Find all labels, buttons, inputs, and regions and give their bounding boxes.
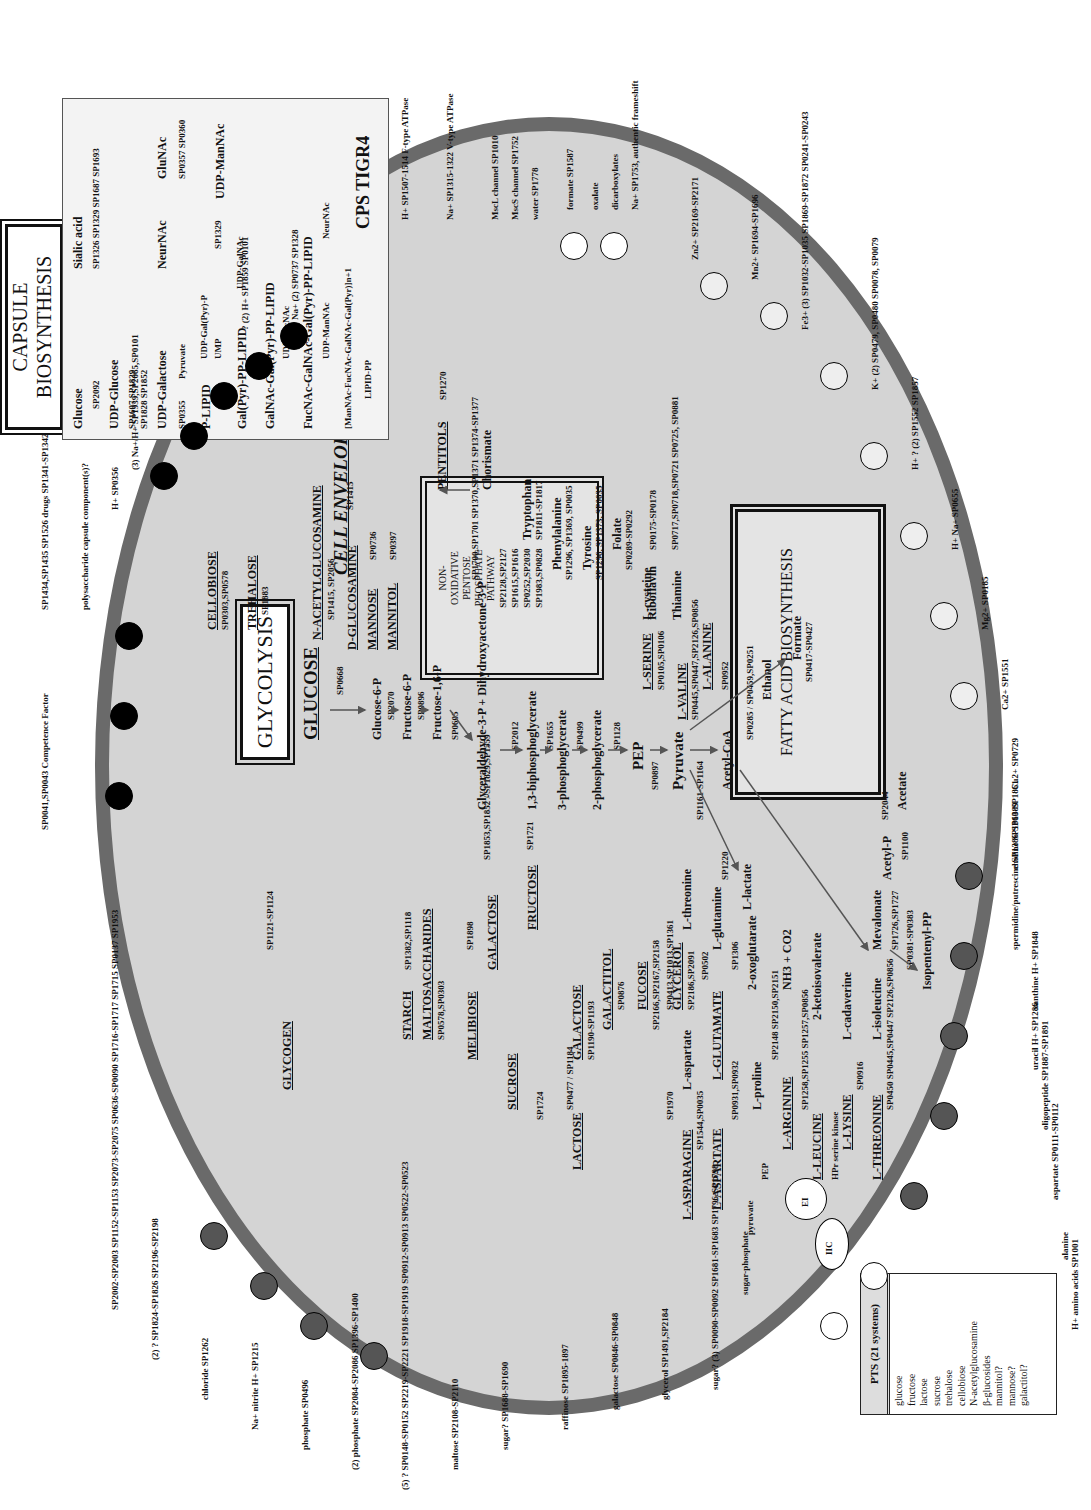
- diagram-canvas: CAPSULE BIOSYNTHESIS GLYCOLYSIS FATTY AC…: [0, 0, 1091, 1510]
- pathway-arrows: [0, 0, 1091, 1510]
